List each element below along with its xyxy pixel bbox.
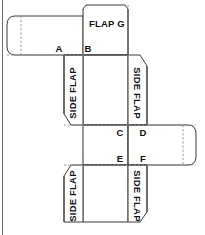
right-glue-flap-outline [128,125,196,165]
point-label-b: B [85,43,92,54]
lower-body-panel-outline [83,165,128,222]
dieline-drawing: FLAP G SIDE FLAP SIDE FLAP SIDE FLAP SID… [0,0,205,235]
point-label-e: E [117,153,123,164]
flap-g-label: FLAP G [89,18,125,29]
point-label-d: D [140,127,147,138]
side-flap-left-upper-label: SIDE FLAP [67,67,78,119]
point-label-f: F [140,153,146,164]
left-glue-flap-outline [7,16,83,55]
side-flap-left-lower-label: SIDE FLAP [67,170,78,222]
dieline-figure: FLAP G SIDE FLAP SIDE FLAP SIDE FLAP SID… [0,0,205,235]
side-flap-right-upper-label: SIDE FLAP [132,67,143,119]
upper-body-panel-outline [83,55,128,125]
side-flap-right-lower-label: SIDE FLAP [132,170,143,222]
point-label-a: A [56,43,63,54]
point-label-c: C [117,127,124,138]
